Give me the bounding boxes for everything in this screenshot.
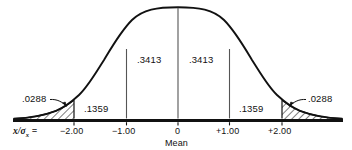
axis-variable-label: x/σx =: [13, 126, 37, 138]
area-label-right-outer: .1359: [239, 103, 263, 114]
axis-variable-main: x/σ: [13, 126, 26, 136]
axis-variable-equals: =: [29, 126, 37, 136]
area-label-left-tail: .0288: [22, 93, 46, 104]
right-tail-leader-arrow: [290, 99, 307, 106]
area-label-right-tail: .0288: [308, 93, 332, 104]
axis-tick-marks: [74, 122, 282, 125]
normal-distribution-figure: .0288 .1359 .3413 .3413 .1359 .0288 x/σx…: [0, 0, 352, 150]
area-label-right-inner: .3413: [189, 54, 213, 65]
tick-label-zero: 0: [175, 126, 180, 136]
tick-label-plus-1: +1.00: [216, 126, 239, 136]
tick-label-minus-2: −2.00: [60, 126, 83, 136]
area-label-left-outer: .1359: [84, 103, 108, 114]
area-label-left-inner: .3413: [137, 54, 161, 65]
tick-label-plus-2: +2.00: [268, 126, 291, 136]
tick-label-minus-1: −1.00: [112, 126, 135, 136]
left-tail-leader-arrow: [50, 99, 67, 106]
mean-label: Mean: [165, 138, 188, 148]
